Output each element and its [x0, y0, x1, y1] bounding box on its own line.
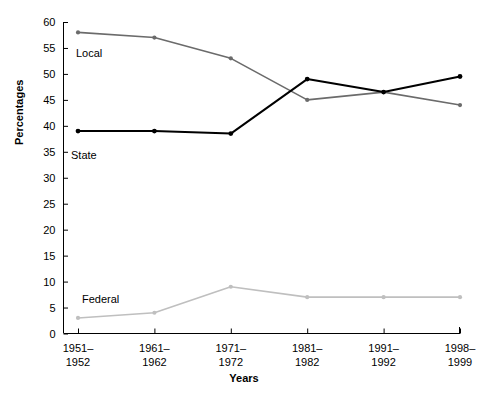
chart-series-group	[76, 30, 463, 320]
x-tick-label: 1961–1962	[119, 341, 189, 369]
series-label-federal: Federal	[82, 294, 119, 305]
data-point	[152, 35, 156, 39]
x-tick-label-line2: 1992	[349, 355, 419, 369]
y-tick-label: 25	[26, 199, 56, 210]
x-tick-label: 1991–1992	[349, 341, 419, 369]
data-point	[305, 295, 309, 299]
data-point	[76, 129, 81, 134]
x-tick-label-line2: 1972	[196, 355, 266, 369]
y-axis-title: Percentages	[13, 127, 25, 145]
data-point	[305, 98, 309, 102]
data-point	[458, 103, 462, 107]
x-tick-label: 1998–1999	[425, 341, 488, 369]
data-point	[76, 30, 80, 34]
data-point	[152, 129, 157, 134]
y-tick-label: 10	[26, 277, 56, 288]
data-point	[382, 295, 386, 299]
y-tick-label: 60	[26, 17, 56, 28]
series-local	[76, 30, 462, 107]
y-tick-label: 5	[26, 303, 56, 314]
data-point	[228, 131, 233, 136]
data-point	[229, 285, 233, 289]
y-tick-label: 55	[26, 43, 56, 54]
x-tick-label-line2: 1999	[425, 355, 488, 369]
chart-axes	[64, 22, 461, 334]
x-tick-label-line1: 1981–	[272, 341, 342, 355]
series-state	[76, 74, 463, 136]
x-tick-label-line1: 1998–	[425, 341, 488, 355]
series-line-federal	[78, 287, 460, 318]
x-tick-label-line1: 1951–	[43, 341, 113, 355]
series-label-local: Local	[76, 48, 102, 59]
x-axis-ticks	[79, 329, 461, 334]
data-point	[305, 77, 310, 82]
x-axis-title: Years	[0, 372, 488, 384]
y-tick-label: 20	[26, 225, 56, 236]
y-tick-label: 35	[26, 147, 56, 158]
x-tick-label-line1: 1991–	[349, 341, 419, 355]
series-federal	[76, 285, 462, 320]
x-tick-label: 1951–1952	[43, 341, 113, 369]
y-tick-label: 15	[26, 251, 56, 262]
data-point	[458, 295, 462, 299]
x-tick-label: 1981–1982	[272, 341, 342, 369]
data-point	[152, 311, 156, 315]
y-tick-label: 30	[26, 173, 56, 184]
data-point	[458, 74, 463, 79]
y-tick-label: 40	[26, 121, 56, 132]
series-line-state	[78, 77, 460, 134]
data-point	[76, 316, 80, 320]
series-line-local	[78, 32, 460, 105]
x-tick-label-line2: 1952	[43, 355, 113, 369]
y-axis-ticks	[64, 23, 69, 335]
x-tick-label-line1: 1971–	[196, 341, 266, 355]
series-label-state: State	[71, 150, 97, 161]
line-chart-plot	[0, 0, 488, 398]
data-point	[381, 90, 386, 95]
x-tick-label: 1971–1972	[196, 341, 266, 369]
x-tick-label-line2: 1982	[272, 355, 342, 369]
y-tick-label: 50	[26, 69, 56, 80]
y-tick-label: 0	[26, 329, 56, 340]
y-tick-label: 45	[26, 95, 56, 106]
x-tick-label-line1: 1961–	[119, 341, 189, 355]
data-point	[229, 56, 233, 60]
x-tick-label-line2: 1962	[119, 355, 189, 369]
chart-container: 051015202530354045505560 1951–19521961–1…	[0, 0, 488, 398]
